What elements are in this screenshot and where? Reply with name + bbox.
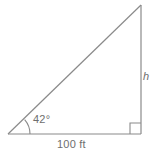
angle-label: 42° xyxy=(33,114,50,125)
triangle-diagram: 42° h 100 ft xyxy=(0,0,152,164)
right-angle-icon xyxy=(130,123,141,134)
hypotenuse-line xyxy=(8,5,141,134)
angle-arc-icon xyxy=(25,120,30,134)
height-label: h xyxy=(143,71,149,82)
base-label: 100 ft xyxy=(57,139,86,150)
